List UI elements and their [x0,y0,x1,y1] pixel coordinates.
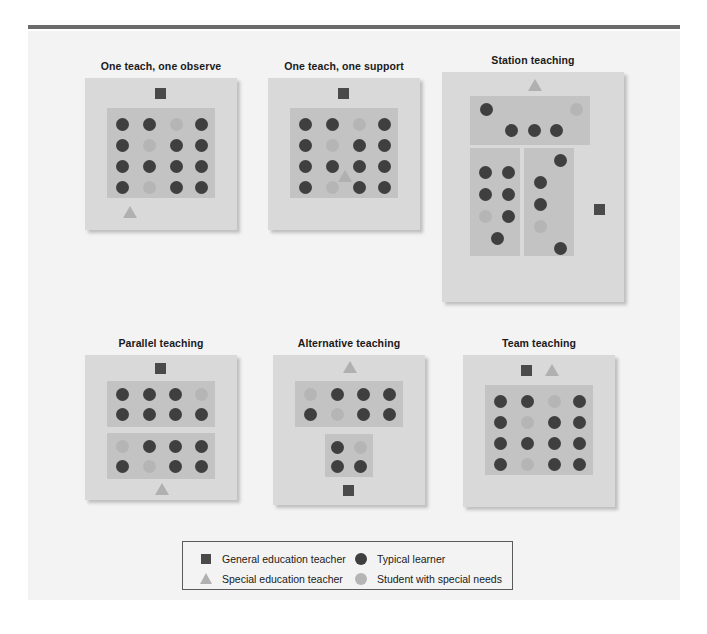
student-token-typical [505,124,518,137]
student-token-typical [502,188,515,201]
student-token-typical [494,437,507,450]
student-token-special-needs [548,395,561,408]
legend-label: Special education teacher [222,573,343,585]
general-education-teacher-icon [594,204,605,215]
student-token-typical [116,118,129,131]
special-education-teacher-icon [338,170,352,182]
legend-label: General education teacher [222,553,346,565]
student-token-special-needs [521,416,534,429]
student-token-typical [383,408,396,421]
panel-title-one-teach-one-observe: One teach, one observe [85,60,237,72]
student-token-typical [502,166,515,179]
student-token-typical [554,154,567,167]
panel-title-one-teach-one-support: One teach, one support [268,60,420,72]
student-token-typical [550,124,563,137]
panel-title-station-teaching: Station teaching [442,54,624,66]
student-token-typical [383,388,396,401]
student-token-special-needs [331,408,344,421]
student-token-typical [169,408,182,421]
student-token-typical [378,181,391,194]
general-education-teacher-icon [521,365,532,376]
header-rule [28,25,680,29]
student-token-typical [491,232,504,245]
general-education-teacher-icon [338,88,349,99]
student-token-typical [169,460,182,473]
student-token-typical [521,395,534,408]
student-token-special-needs [170,118,183,131]
student-token-typical [116,460,129,473]
student-token-typical [573,395,586,408]
student-token-typical [116,181,129,194]
student-token-typical [521,437,534,450]
station-3-group [524,148,574,256]
student-token-typical [548,458,561,471]
student-token-typical [195,440,208,453]
student-token-typical [299,139,312,152]
student-token-special-needs [354,441,367,454]
panel-title-team-teaching: Team teaching [463,337,615,349]
student-token-typical [494,416,507,429]
panel-station-teaching: Station teaching [442,72,624,302]
student-token-typical [378,160,391,173]
panel-parallel-teaching: Parallel teaching [85,355,237,500]
student-token-typical [195,408,208,421]
general-education-teacher-icon [155,363,166,374]
student-token-typical [479,166,492,179]
student-token-special-needs [195,388,208,401]
student-token-special-needs [534,220,547,233]
student-token-typical [170,160,183,173]
student-token-typical [573,416,586,429]
student-token-typical [116,408,129,421]
student-token-typical [331,441,344,454]
student-token-special-needs [326,181,339,194]
student-token-typical [357,408,370,421]
student-token-typical [573,458,586,471]
student-token-typical [494,395,507,408]
legend-label: Student with special needs [377,573,502,585]
legend-label: Typical learner [377,553,445,565]
student-token-typical [331,460,344,473]
triangle-icon [195,573,217,584]
light-circle-icon [350,573,372,585]
general-education-teacher-icon [155,88,166,99]
panel-one-teach-one-observe: One teach, one observe [85,78,237,230]
special-education-teacher-icon [155,483,169,495]
student-token-typical [573,437,586,450]
student-token-special-needs [521,458,534,471]
student-token-typical [299,160,312,173]
student-token-typical [528,124,541,137]
student-token-typical [502,210,515,223]
student-token-typical [479,188,492,201]
panel-title-alternative-teaching: Alternative teaching [273,337,425,349]
student-token-typical [353,160,366,173]
student-token-special-needs [326,139,339,152]
student-token-typical [353,181,366,194]
student-token-typical [195,460,208,473]
student-token-typical [353,139,366,152]
student-token-typical [480,103,493,116]
student-token-typical [195,160,208,173]
student-token-typical [143,388,156,401]
panel-team-teaching: Team teaching [463,355,615,507]
student-token-special-needs [479,210,492,223]
general-education-teacher-icon [343,485,354,496]
student-token-typical [354,460,367,473]
legend: General education teacher Special educat… [182,541,513,590]
student-token-typical [143,440,156,453]
legend-item-typical-learner: Typical learner [350,550,502,567]
student-token-typical [548,416,561,429]
student-token-special-needs [353,118,366,131]
student-token-typical [378,139,391,152]
student-token-typical [357,388,370,401]
co-teaching-models-figure: One teach, one observe One teach, one su… [0,0,707,634]
student-token-typical [143,408,156,421]
student-token-typical [534,198,547,211]
student-token-typical [195,181,208,194]
student-token-typical [143,160,156,173]
student-token-typical [554,242,567,255]
legend-item-student-with-special-needs: Student with special needs [350,570,502,587]
student-token-special-needs [143,181,156,194]
student-token-typical [170,181,183,194]
legend-column-teachers: General education teacher Special educat… [195,550,346,590]
student-token-typical [170,139,183,152]
